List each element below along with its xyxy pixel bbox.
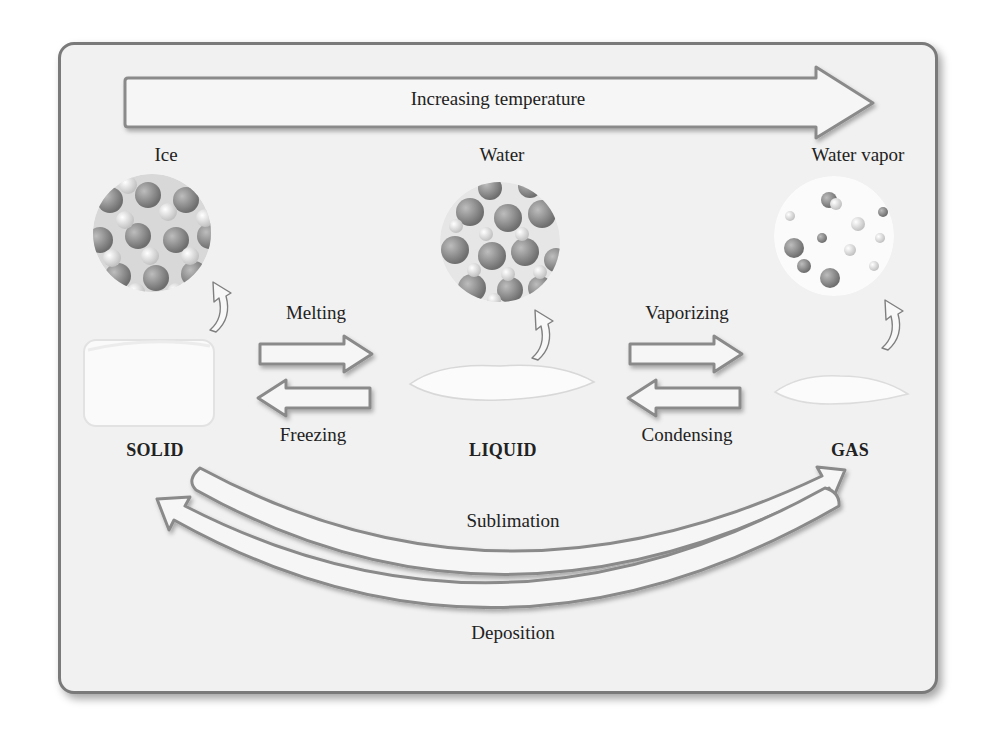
ice-molecule-icon (87, 174, 223, 301)
condensing-arrow (628, 380, 740, 416)
vaporizing-arrow (630, 336, 742, 372)
gas-state-label: GAS (831, 440, 869, 461)
vapor-puddle-image (775, 376, 908, 404)
vaporizing-label: Vaporizing (645, 302, 728, 324)
liquid-state-label: LIQUID (469, 440, 537, 461)
water-label: Water (480, 144, 525, 166)
melting-arrow (260, 336, 372, 372)
water-vapor-molecule-icon (774, 176, 894, 296)
solid-state-label: SOLID (126, 440, 184, 461)
water-zoom-arrow-icon (532, 310, 553, 360)
ice-label: Ice (154, 144, 177, 166)
vapor-zoom-arrow-icon (882, 300, 903, 350)
water-puddle-image (410, 365, 594, 400)
freezing-arrow (258, 380, 370, 416)
ice-cube-image (84, 340, 214, 426)
water-vapor-label: Water vapor (812, 144, 905, 166)
water-molecule-icon (440, 174, 568, 311)
melting-label: Melting (286, 302, 346, 324)
deposition-label: Deposition (471, 622, 554, 644)
ice-zoom-arrow-icon (210, 282, 231, 332)
sublimation-label: Sublimation (467, 510, 560, 532)
increasing-temperature-label: Increasing temperature (411, 88, 586, 110)
freezing-label: Freezing (280, 424, 346, 446)
condensing-label: Condensing (642, 424, 733, 446)
